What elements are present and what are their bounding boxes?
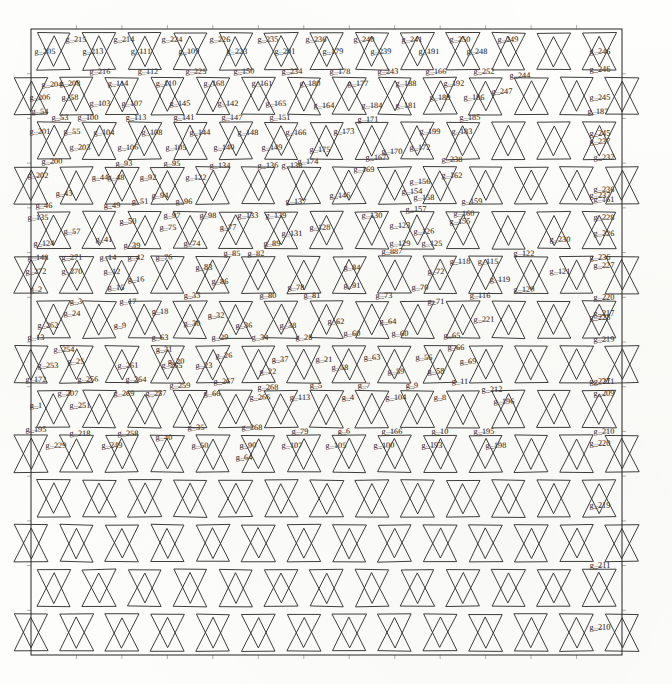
mesh-triangle [469,167,502,200]
mesh-triangle [356,573,389,607]
mesh-triangle [514,170,547,204]
mesh-triangle [128,122,162,156]
mesh-triangle [151,80,184,115]
mesh-triangle [37,573,70,607]
mesh-triangle [401,391,434,425]
mesh-triangle [173,304,206,338]
mesh-triangle [424,438,457,472]
mesh-triangle [515,257,548,291]
mesh-triangle [492,390,525,424]
mesh-triangle [333,617,366,651]
mesh-triangle [401,480,435,514]
mesh-triangle [469,615,503,649]
mesh-triangle [219,573,252,607]
mesh-triangle [151,614,185,648]
mesh-triangle [446,484,479,517]
mesh-triangle [83,483,117,517]
mesh-triangle [560,77,593,111]
mesh-triangle [151,438,184,472]
mesh-triangle [197,81,230,115]
mesh-triangle [582,304,615,338]
mesh-triangle [310,33,343,67]
mesh-triangle [515,346,548,380]
mesh-triangle [173,483,207,517]
mesh-triangle [174,480,207,513]
mesh-triangle [37,122,71,156]
mesh-triangle [446,391,479,425]
mesh-triangle [378,256,411,290]
mesh-triangle [218,480,252,513]
mesh-triangle [287,528,321,562]
mesh-triangle [241,525,275,558]
mesh-triangle [378,435,411,469]
mesh-triangle [196,260,229,293]
mesh-triangle [83,480,117,513]
mesh-triangle [196,614,229,648]
mesh-triangle [378,525,411,558]
mesh-triangle [128,304,161,338]
mesh-triangle [424,346,456,380]
mesh-triangle [538,215,571,248]
mesh-triangle [287,614,320,647]
mesh-triangle [310,36,343,69]
mesh-triangle [37,125,71,159]
mesh-triangle [424,435,457,469]
mesh-triangle [105,350,138,383]
mesh-triangle [469,259,503,293]
mesh-triangle [173,394,207,428]
mesh-triangle [38,212,71,246]
mesh-triangle [582,301,616,336]
mesh-triangle [264,570,298,603]
mesh-triangle [310,301,343,335]
mesh-triangle [310,573,343,607]
mesh-triangle [378,346,411,379]
mesh-triangle [174,123,207,156]
mesh-triangle [59,435,93,469]
mesh-triangle [446,32,480,66]
mesh-triangle [515,260,549,294]
mesh-triangle [537,390,570,424]
mesh-triangle [264,32,298,66]
mesh-triangle [105,167,139,201]
mesh-triangle [401,570,433,604]
mesh-drawing [0,0,672,684]
mesh-triangle [128,570,161,603]
mesh-triangle [196,77,229,111]
mesh-triangle [197,528,230,562]
mesh-triangle [559,349,593,383]
mesh-triangle [333,528,366,562]
mesh-triangle [469,617,503,651]
mesh-triangle [332,170,366,204]
mesh-triangle [196,350,229,383]
mesh-triangle [242,346,275,379]
mesh-triangle [560,346,594,380]
mesh-triangle [582,569,616,603]
mesh-triangle [82,301,116,335]
mesh-triangle [82,122,116,156]
mesh-triangle [446,570,480,604]
mesh-triangle [446,573,480,607]
mesh-triangle [60,617,94,651]
mesh-triangle [469,349,502,383]
mesh-triangle [264,301,298,334]
mesh-triangle [151,346,184,380]
mesh-triangle [582,572,616,606]
mesh-figure-page: g_215g_205g_214g_213g_224g_111g_226g_109… [0,0,672,684]
mesh-triangle [332,259,366,293]
triangular-elements-group [14,32,639,651]
mesh-triangle [424,614,457,648]
mesh-triangle [492,305,525,339]
mesh-triangle [241,259,274,293]
mesh-triangle [287,346,320,380]
mesh-triangle [401,304,434,338]
mesh-triangle [264,390,298,424]
mesh-triangle [537,37,571,70]
mesh-triangle [356,302,389,335]
mesh-triangle [492,36,525,70]
mesh-triangle [355,569,389,603]
mesh-triangle [105,81,138,114]
mesh-triangle [105,618,139,651]
mesh-triangle [310,480,344,514]
mesh-triangle [401,126,434,159]
mesh-triangle [355,122,388,156]
